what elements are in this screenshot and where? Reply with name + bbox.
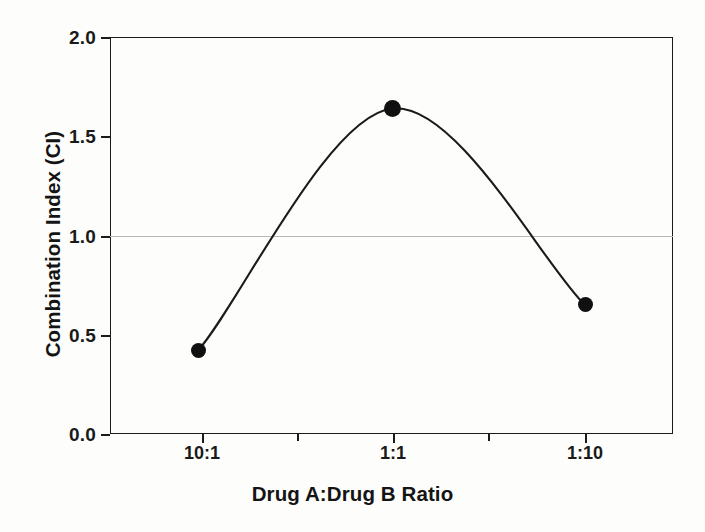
x-tick-minor-1 [297, 434, 299, 441]
x-tick-label-10-1: 10:1 [147, 444, 257, 462]
reference-line-ci-1 [110, 236, 673, 237]
x-tick-10-1 [202, 434, 204, 443]
x-tick-1-1 [393, 434, 395, 443]
x-tick-minor-2 [488, 434, 490, 441]
x-tick-label-1-10: 1:10 [530, 444, 640, 462]
y-tick-1-0 [101, 236, 110, 238]
y-tick-label-0-0: 0.0 [44, 425, 96, 444]
y-axis-title: Combination Index (CI) [41, 94, 65, 394]
data-point-1-10 [578, 297, 593, 312]
x-tick-1-10 [585, 434, 587, 443]
x-tick-label-1-1: 1:1 [338, 444, 448, 462]
y-tick-0-5 [101, 335, 110, 337]
y-tick-0-0 [101, 434, 110, 436]
x-axis-title: Drug A:Drug B Ratio [0, 482, 705, 506]
data-point-10-1 [191, 343, 206, 358]
y-tick-label-2-0: 2.0 [44, 28, 96, 47]
chart-figure: 2.0 1.5 1.0 0.5 0.0 Combination Index (C… [0, 0, 705, 532]
y-tick-1-5 [101, 136, 110, 138]
data-point-1-1 [384, 100, 401, 117]
y-tick-2-0 [101, 37, 110, 39]
